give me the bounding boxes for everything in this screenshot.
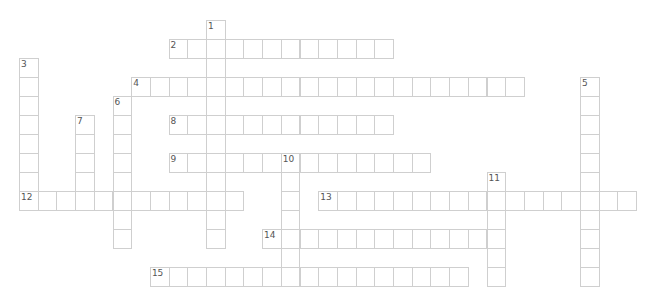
crossword-cell[interactable]	[543, 191, 563, 211]
crossword-cell[interactable]	[206, 210, 226, 230]
crossword-cell[interactable]	[318, 229, 338, 249]
crossword-cell[interactable]: 1	[206, 20, 226, 40]
crossword-cell[interactable]	[580, 96, 600, 116]
crossword-cell[interactable]	[113, 153, 133, 173]
crossword-cell[interactable]	[337, 115, 357, 135]
crossword-cell[interactable]	[468, 77, 488, 97]
crossword-cell[interactable]	[430, 191, 450, 211]
crossword-cell[interactable]	[412, 153, 432, 173]
crossword-cell[interactable]	[487, 210, 507, 230]
crossword-cell[interactable]	[187, 115, 207, 135]
crossword-cell[interactable]	[206, 229, 226, 249]
crossword-cell[interactable]	[262, 115, 282, 135]
crossword-cell[interactable]	[356, 191, 376, 211]
crossword-cell[interactable]	[262, 153, 282, 173]
crossword-cell[interactable]	[19, 115, 39, 135]
crossword-cell[interactable]	[300, 229, 320, 249]
crossword-cell[interactable]	[225, 77, 245, 97]
crossword-cell[interactable]	[393, 229, 413, 249]
crossword-cell[interactable]	[318, 153, 338, 173]
crossword-cell[interactable]	[206, 77, 226, 97]
crossword-cell[interactable]	[300, 267, 320, 287]
crossword-cell[interactable]	[449, 267, 469, 287]
crossword-cell[interactable]	[75, 172, 95, 192]
crossword-cell[interactable]	[281, 248, 301, 268]
crossword-cell[interactable]	[580, 191, 600, 211]
crossword-cell[interactable]	[300, 153, 320, 173]
crossword-cell[interactable]: 8	[169, 115, 189, 135]
crossword-cell[interactable]	[150, 191, 170, 211]
crossword-cell[interactable]	[169, 191, 189, 211]
crossword-cell[interactable]	[206, 39, 226, 59]
crossword-cell[interactable]	[318, 267, 338, 287]
crossword-cell[interactable]	[374, 39, 394, 59]
crossword-cell[interactable]	[169, 77, 189, 97]
crossword-cell[interactable]	[617, 191, 637, 211]
crossword-cell[interactable]	[524, 191, 544, 211]
crossword-cell[interactable]	[281, 267, 301, 287]
crossword-cell[interactable]	[113, 172, 133, 192]
crossword-cell[interactable]: 13	[318, 191, 338, 211]
crossword-cell[interactable]	[225, 153, 245, 173]
crossword-cell[interactable]	[281, 115, 301, 135]
crossword-cell[interactable]	[318, 39, 338, 59]
crossword-cell[interactable]	[225, 267, 245, 287]
crossword-cell[interactable]	[19, 134, 39, 154]
crossword-cell[interactable]	[468, 229, 488, 249]
crossword-cell[interactable]	[94, 191, 114, 211]
crossword-cell[interactable]	[75, 134, 95, 154]
crossword-cell[interactable]	[281, 39, 301, 59]
crossword-cell[interactable]	[75, 191, 95, 211]
crossword-cell[interactable]	[206, 58, 226, 78]
crossword-cell[interactable]	[131, 191, 151, 211]
crossword-cell[interactable]	[113, 210, 133, 230]
crossword-cell[interactable]	[243, 153, 263, 173]
crossword-cell[interactable]	[300, 39, 320, 59]
crossword-cell[interactable]	[337, 267, 357, 287]
crossword-cell[interactable]	[318, 77, 338, 97]
crossword-cell[interactable]	[393, 153, 413, 173]
crossword-cell[interactable]	[19, 96, 39, 116]
crossword-cell[interactable]	[449, 77, 469, 97]
crossword-cell[interactable]	[374, 77, 394, 97]
crossword-cell[interactable]	[206, 153, 226, 173]
crossword-cell[interactable]	[430, 229, 450, 249]
crossword-cell[interactable]	[393, 267, 413, 287]
crossword-cell[interactable]	[487, 191, 507, 211]
crossword-cell[interactable]	[356, 115, 376, 135]
crossword-cell[interactable]	[19, 77, 39, 97]
crossword-cell[interactable]	[243, 115, 263, 135]
crossword-cell[interactable]	[225, 191, 245, 211]
crossword-cell[interactable]	[356, 229, 376, 249]
crossword-cell[interactable]	[281, 77, 301, 97]
crossword-cell[interactable]: 3	[19, 58, 39, 78]
crossword-cell[interactable]	[113, 134, 133, 154]
crossword-cell[interactable]	[56, 191, 76, 211]
crossword-cell[interactable]	[412, 191, 432, 211]
crossword-cell[interactable]	[337, 39, 357, 59]
crossword-cell[interactable]: 14	[262, 229, 282, 249]
crossword-cell[interactable]	[225, 39, 245, 59]
crossword-cell[interactable]	[187, 77, 207, 97]
crossword-cell[interactable]	[580, 210, 600, 230]
crossword-cell[interactable]	[262, 77, 282, 97]
crossword-cell[interactable]	[412, 77, 432, 97]
crossword-cell[interactable]	[225, 115, 245, 135]
crossword-cell[interactable]	[561, 191, 581, 211]
crossword-cell[interactable]	[487, 267, 507, 287]
crossword-cell[interactable]	[487, 77, 507, 97]
crossword-cell[interactable]	[412, 267, 432, 287]
crossword-cell[interactable]	[243, 267, 263, 287]
crossword-cell[interactable]	[262, 39, 282, 59]
crossword-cell[interactable]	[113, 115, 133, 135]
crossword-cell[interactable]: 2	[169, 39, 189, 59]
crossword-cell[interactable]	[580, 153, 600, 173]
crossword-cell[interactable]	[300, 77, 320, 97]
crossword-cell[interactable]	[374, 267, 394, 287]
crossword-cell[interactable]	[449, 191, 469, 211]
crossword-cell[interactable]: 6	[113, 96, 133, 116]
crossword-cell[interactable]: 4	[131, 77, 151, 97]
crossword-cell[interactable]	[374, 191, 394, 211]
crossword-cell[interactable]	[19, 172, 39, 192]
crossword-cell[interactable]	[206, 115, 226, 135]
